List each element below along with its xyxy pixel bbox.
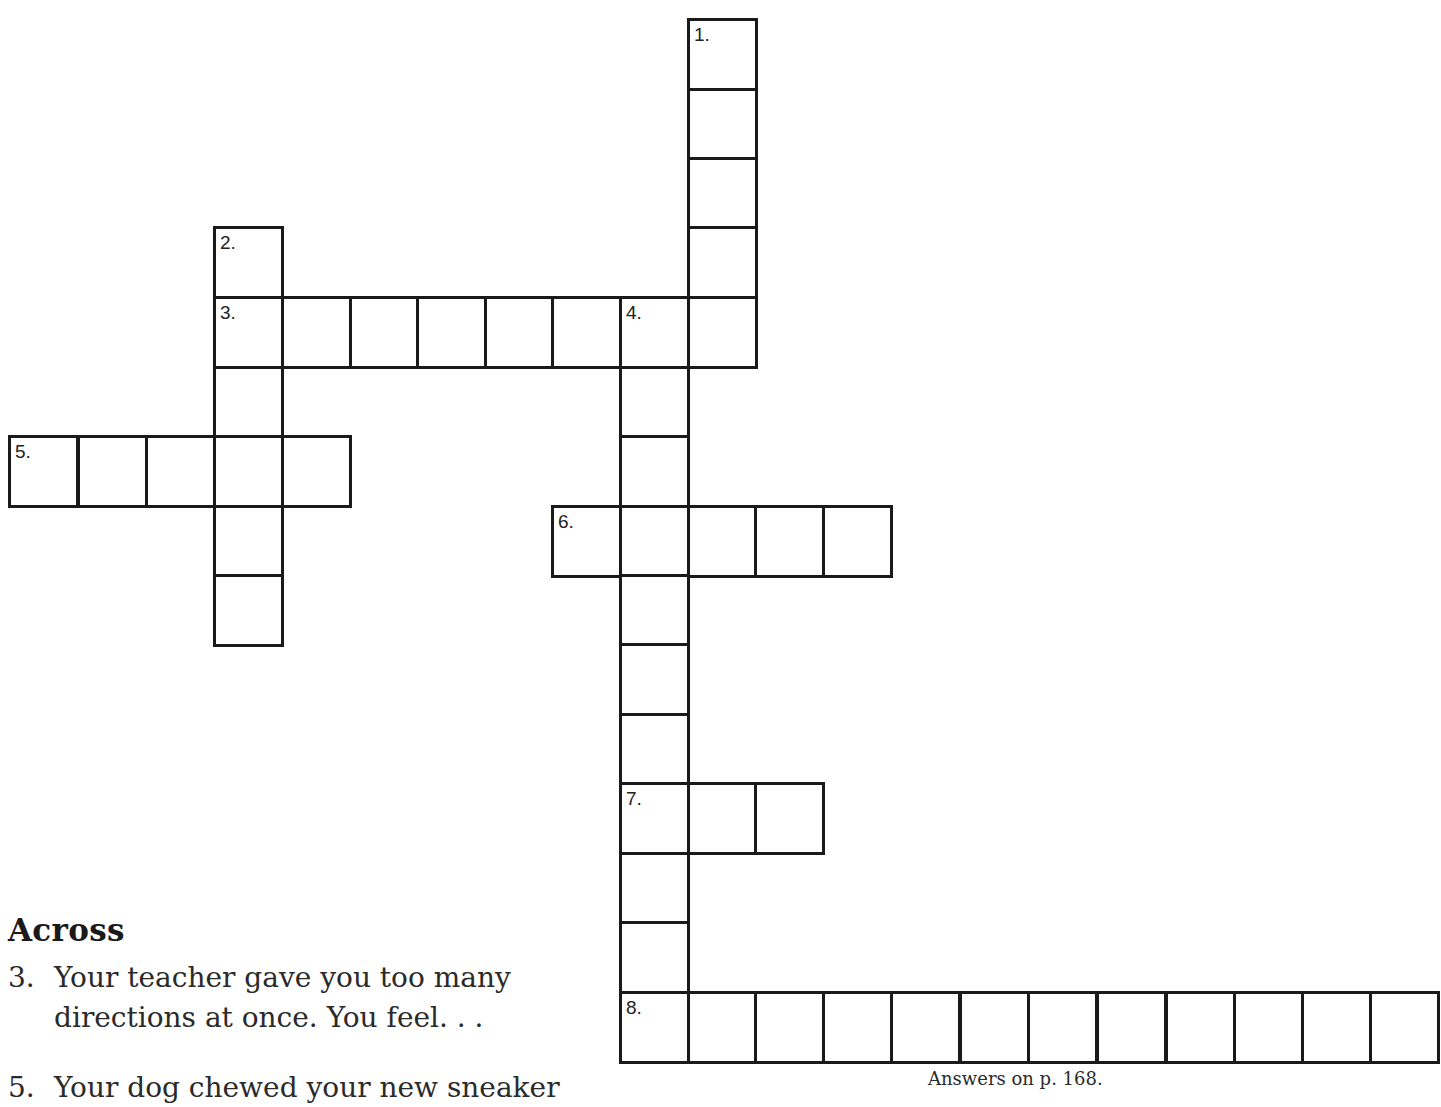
crossword-cell[interactable] — [687, 88, 758, 161]
clue-text-line2: directions at once. You feel. . . — [8, 998, 511, 1038]
crossword-cell[interactable] — [213, 574, 284, 647]
crossword-cell[interactable]: 8. — [619, 991, 690, 1064]
crossword-cell[interactable]: 2. — [213, 226, 284, 299]
clues-heading-across: Across — [8, 912, 125, 948]
clue-number-label: 7. — [626, 789, 642, 808]
crossword-cell[interactable] — [145, 435, 216, 508]
crossword-cell[interactable] — [619, 921, 690, 994]
clue-number-label: 5. — [15, 442, 31, 461]
crossword-cell[interactable] — [349, 296, 420, 369]
crossword-cell[interactable] — [687, 296, 758, 369]
clue-number-label: 1. — [694, 25, 710, 44]
clue-across-3: 3.Your teacher gave you too many directi… — [8, 958, 511, 1038]
crossword-cell[interactable] — [619, 366, 690, 439]
crossword-cell[interactable] — [213, 366, 284, 439]
crossword-cell[interactable] — [687, 782, 758, 855]
crossword-cell[interactable] — [213, 435, 284, 508]
crossword-cell[interactable] — [687, 505, 758, 578]
clue-number-label: 3. — [220, 303, 236, 322]
clue-number-label: 6. — [558, 512, 574, 531]
crossword-cell[interactable] — [619, 852, 690, 925]
crossword-cell[interactable] — [1096, 991, 1167, 1064]
crossword-cell[interactable] — [687, 157, 758, 230]
crossword-cell[interactable]: 5. — [8, 435, 79, 508]
crossword-cell[interactable]: 3. — [213, 296, 284, 369]
crossword-cell[interactable] — [822, 505, 893, 578]
clue-number-label: 2. — [220, 233, 236, 252]
clue-number: 5. — [8, 1068, 54, 1107]
crossword-cell[interactable] — [890, 991, 961, 1064]
crossword-cell[interactable] — [1369, 991, 1440, 1064]
crossword-cell[interactable] — [1233, 991, 1304, 1064]
crossword-cell[interactable]: 4. — [619, 296, 690, 369]
clue-across-5: 5.Your dog chewed your new sneaker — [8, 1068, 560, 1107]
crossword-cell[interactable] — [687, 226, 758, 299]
crossword-cell[interactable]: 1. — [687, 18, 758, 91]
crossword-cell[interactable] — [1165, 991, 1236, 1064]
crossword-cell[interactable] — [619, 574, 690, 647]
crossword-cell[interactable] — [1027, 991, 1098, 1064]
clue-number-label: 8. — [626, 998, 642, 1017]
crossword-cell[interactable] — [551, 296, 622, 369]
crossword-cell[interactable] — [619, 713, 690, 786]
clue-number: 3. — [8, 958, 54, 998]
crossword-cell[interactable] — [619, 435, 690, 508]
crossword-cell[interactable] — [213, 505, 284, 578]
crossword-cell[interactable] — [281, 296, 352, 369]
crossword-cell[interactable] — [822, 991, 893, 1064]
crossword-cell[interactable] — [619, 643, 690, 716]
crossword-cell[interactable]: 7. — [619, 782, 690, 855]
crossword-cell[interactable] — [754, 782, 825, 855]
answers-note: Answers on p. 168. — [928, 1068, 1103, 1089]
crossword-cell[interactable] — [77, 435, 148, 508]
clue-number-label: 4. — [626, 303, 642, 322]
clue-text-line1: Your teacher gave you too many — [54, 961, 511, 994]
crossword-cell[interactable] — [416, 296, 487, 369]
crossword-cell[interactable] — [959, 991, 1030, 1064]
crossword-cell[interactable] — [484, 296, 555, 369]
crossword-cell[interactable] — [687, 991, 758, 1064]
crossword-cell[interactable]: 6. — [551, 505, 622, 578]
crossword-cell[interactable] — [619, 505, 690, 578]
clue-text-line1: Your dog chewed your new sneaker — [54, 1071, 560, 1104]
crossword-cell[interactable] — [754, 991, 825, 1064]
crossword-cell[interactable] — [281, 435, 352, 508]
crossword-cell[interactable] — [754, 505, 825, 578]
crossword-cell[interactable] — [1301, 991, 1372, 1064]
